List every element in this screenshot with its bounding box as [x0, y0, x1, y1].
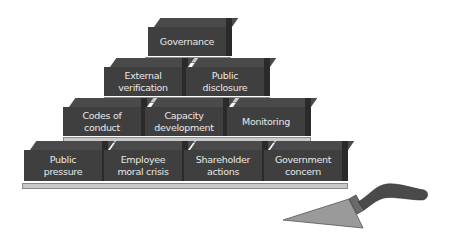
trowel-icon: [0, 0, 450, 241]
